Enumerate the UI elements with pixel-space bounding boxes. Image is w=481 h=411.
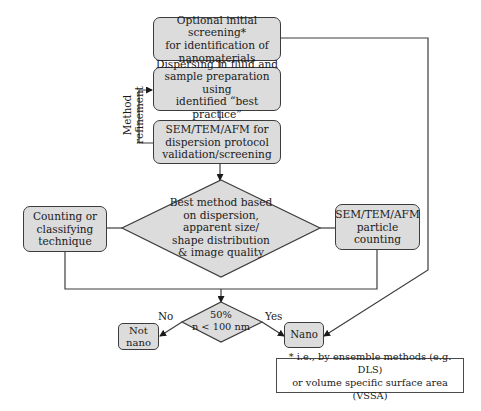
node-nano-text: Nano	[290, 329, 318, 342]
node-validation: SEM/TEM/AFM for dispersion protocol vali…	[153, 120, 281, 164]
node-initial-screening: Optional initial screening* for identifi…	[153, 17, 281, 61]
node-not-nano-text: Not nano	[126, 325, 151, 348]
node-counting-technique: Counting or classifying technique	[23, 206, 107, 252]
node-dispersing-text: Dispersing in fluid and sample preparati…	[154, 58, 280, 121]
node-particle-counting: SEM/TEM/AFM particle counting	[335, 204, 420, 250]
label-yes: Yes	[265, 310, 282, 322]
node-nano: Nano	[284, 322, 324, 348]
label-no: No	[158, 310, 173, 322]
node-best-method-text: Best method based on dispersion, apparen…	[156, 196, 286, 259]
node-threshold-text: 50% n < 100 nm	[186, 309, 256, 332]
footnote-box: * i.e., by ensemble methods (e.g. DLS) o…	[276, 358, 464, 393]
label-method-refinement: Method refinement	[121, 83, 147, 147]
node-counting-technique-text: Counting or classifying technique	[33, 210, 97, 248]
node-not-nano: Not nano	[118, 323, 159, 350]
node-dispersing: Dispersing in fluid and sample preparati…	[153, 67, 281, 111]
node-validation-text: SEM/TEM/AFM for dispersion protocol vali…	[162, 123, 271, 161]
node-particle-counting-text: SEM/TEM/AFM particle counting	[335, 208, 419, 246]
